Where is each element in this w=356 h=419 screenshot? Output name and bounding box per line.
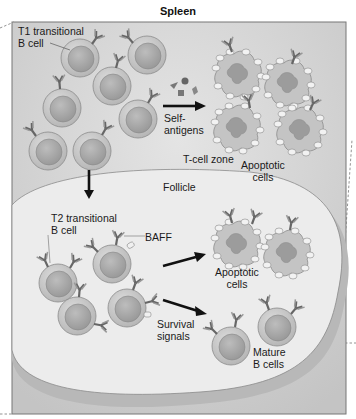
label-t2-transitional: T2 transitional B cell	[51, 212, 117, 236]
label-mature-b-cells: Mature B cells	[253, 346, 286, 370]
label-t1-transitional: T1 transitional B cell	[18, 25, 84, 49]
label-apoptotic-bottom: Apoptotic cells	[215, 266, 259, 290]
label-follicle: Follicle	[163, 181, 196, 193]
label-baff: BAFF	[145, 231, 172, 243]
label-survival-signals: Survival signals	[157, 318, 194, 342]
label-self-antigens: Self- antigens	[164, 112, 204, 136]
spleen-diagram: Spleen T1 transitional B cell Self- anti…	[0, 0, 356, 419]
diagram-title: Spleen	[0, 5, 356, 17]
diagram-canvas	[0, 0, 356, 419]
label-apoptotic-top: Apoptotic cells	[241, 159, 285, 183]
label-tcell-zone: T-cell zone	[183, 153, 234, 165]
